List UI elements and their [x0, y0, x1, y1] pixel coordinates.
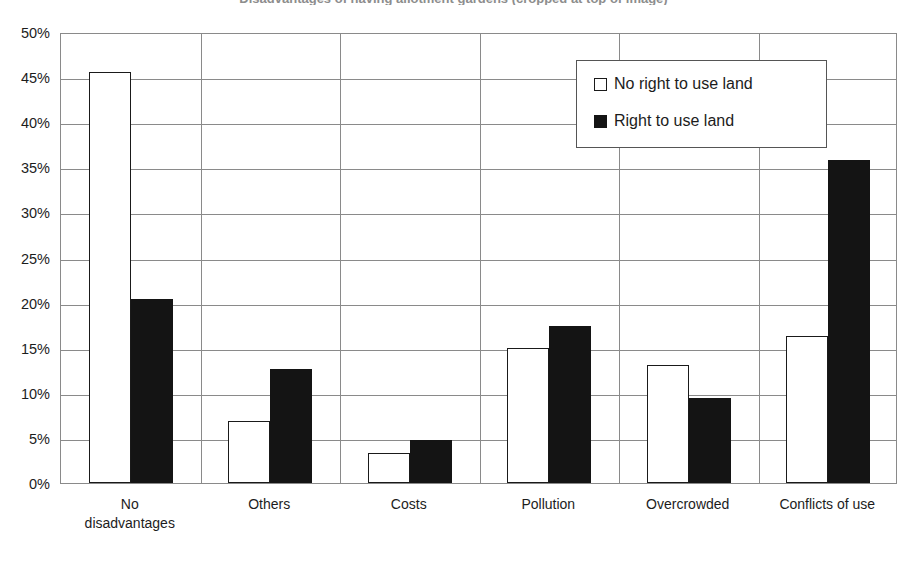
x-axis-tick-label-line: Others: [200, 495, 340, 514]
bar: [647, 365, 689, 483]
gridline-horizontal: [61, 260, 896, 261]
legend-swatch-icon: [594, 115, 607, 128]
bar: [89, 72, 131, 483]
x-axis-tick-label-line: Pollution: [479, 495, 619, 514]
x-axis-tick-label: Nodisadvantages: [60, 495, 200, 533]
gridline-horizontal: [61, 350, 896, 351]
bar: [549, 326, 591, 483]
x-axis-tick-label: Conflicts of use: [758, 495, 898, 514]
y-axis-tick-label: 15%: [0, 342, 50, 357]
gridline-horizontal: [61, 214, 896, 215]
y-axis-tick-label: 50%: [0, 26, 50, 41]
gridline-horizontal: [61, 440, 896, 441]
chart-legend: No right to use landRight to use land: [576, 60, 827, 148]
bar: [410, 440, 452, 483]
bar: [828, 160, 870, 483]
bar: [786, 336, 828, 483]
y-axis-tick-label: 30%: [0, 206, 50, 221]
bar: [689, 398, 731, 483]
gridline-horizontal: [61, 395, 896, 396]
y-axis-tick-label: 40%: [0, 116, 50, 131]
legend-swatch-icon: [594, 78, 607, 91]
y-axis-tick-label: 5%: [0, 432, 50, 447]
y-axis-tick-label: 35%: [0, 161, 50, 176]
y-axis-tick-label: 25%: [0, 252, 50, 267]
gridline-horizontal: [61, 169, 896, 170]
x-axis-tick-label: Overcrowded: [618, 495, 758, 514]
chart-title: Disadvantages of having allotment garden…: [0, 0, 907, 5]
x-axis-tick-label-line: Conflicts of use: [758, 495, 898, 514]
x-axis-tick-label-line: disadvantages: [60, 514, 200, 533]
x-axis-tick-label: Costs: [339, 495, 479, 514]
bar: [131, 299, 173, 483]
gridline-vertical: [201, 34, 202, 483]
bar: [228, 421, 270, 483]
gridline-horizontal: [61, 305, 896, 306]
x-axis-tick-label-line: Overcrowded: [618, 495, 758, 514]
gridline-vertical: [340, 34, 341, 483]
x-axis-tick-label: Others: [200, 495, 340, 514]
x-axis-tick-label-line: No: [60, 495, 200, 514]
legend-item: No right to use land: [594, 75, 753, 93]
y-axis-tick-label: 10%: [0, 387, 50, 402]
bar: [368, 453, 410, 483]
chart-screenshot: Disadvantages of having allotment garden…: [0, 0, 907, 563]
x-axis-tick-label-line: Costs: [339, 495, 479, 514]
y-axis-tick-label: 20%: [0, 297, 50, 312]
bar: [270, 369, 312, 483]
gridline-vertical: [480, 34, 481, 483]
legend-item-label: No right to use land: [614, 75, 753, 93]
y-axis-tick-label: 45%: [0, 71, 50, 86]
x-axis-tick-label: Pollution: [479, 495, 619, 514]
legend-item-label: Right to use land: [614, 112, 734, 130]
bar: [507, 348, 549, 483]
legend-item: Right to use land: [594, 112, 734, 130]
y-axis-tick-label: 0%: [0, 477, 50, 492]
